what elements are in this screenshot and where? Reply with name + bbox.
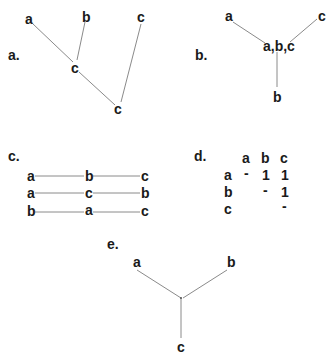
- node-label: b: [85, 168, 94, 184]
- node-label: a: [27, 168, 35, 184]
- node-label: c: [114, 101, 122, 117]
- node-label: a: [133, 254, 141, 270]
- node-label: a: [225, 8, 233, 24]
- node-label: a,b,c: [263, 38, 295, 54]
- edge: [121, 24, 141, 102]
- node-label: b: [141, 185, 150, 201]
- edge: [33, 24, 73, 62]
- node-label: c: [85, 185, 93, 201]
- panel-e-label: e.: [107, 236, 119, 252]
- matrix-cell: -: [244, 165, 249, 181]
- panel-e: e. a b c: [107, 236, 236, 355]
- col-header: b: [261, 150, 270, 166]
- col-header: c: [280, 150, 288, 166]
- panel-a: a. a b c c c: [8, 9, 145, 117]
- node-label: c: [318, 8, 326, 24]
- tree-diagrams: a. a b c c c b. a c a,b,c b c. a b c a c…: [0, 0, 335, 356]
- node-label: c: [141, 168, 149, 184]
- panel-a-label: a.: [8, 47, 20, 63]
- node-label: a: [85, 202, 93, 218]
- node-label: b: [227, 254, 236, 270]
- node-label: c: [71, 60, 79, 76]
- matrix-cell: 1: [281, 167, 289, 183]
- matrix-cell: 1: [262, 167, 270, 183]
- edge: [79, 72, 115, 105]
- matrix-cell: -: [263, 182, 268, 198]
- panel-b: b. a c a,b,c b: [195, 8, 326, 105]
- node-label: c: [177, 339, 185, 355]
- row-header: b: [224, 184, 233, 200]
- node-label: a: [27, 185, 35, 201]
- panel-b-label: b.: [195, 47, 207, 63]
- node-label: c: [137, 9, 145, 25]
- row-header: a: [224, 167, 232, 183]
- node-label: c: [141, 203, 149, 219]
- node-label: a: [25, 11, 33, 27]
- node-label: b: [82, 9, 91, 25]
- panel-d: d. a b c a b c - 1 1 - 1 -: [194, 148, 289, 217]
- node-label: b: [27, 203, 36, 219]
- edge: [77, 22, 85, 60]
- panel-c-label: c.: [8, 148, 20, 164]
- edge: [137, 270, 181, 298]
- panel-d-label: d.: [194, 148, 206, 164]
- edge: [233, 22, 265, 43]
- junction-point: [180, 297, 182, 299]
- col-header: a: [242, 150, 250, 166]
- matrix-cell: -: [282, 198, 287, 214]
- edge: [183, 270, 227, 298]
- row-header: c: [224, 201, 232, 217]
- node-label: b: [273, 89, 282, 105]
- panel-c: c. a b c a c b b a c: [8, 148, 150, 219]
